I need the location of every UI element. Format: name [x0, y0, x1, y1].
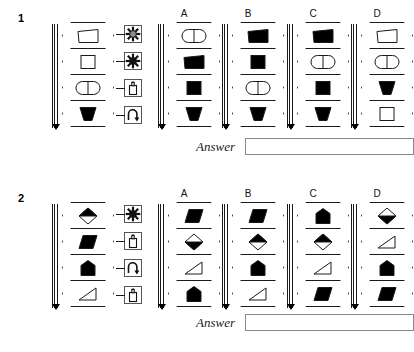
puzzle-1: 1ABCDAnswer [0, 0, 414, 176]
operator-connector [116, 34, 125, 35]
rotate-arrow-icon [125, 107, 141, 127]
flask-icon [125, 233, 141, 253]
operator-connector [116, 268, 125, 269]
option-A-rail [158, 24, 164, 128]
option-B-cell-3 [232, 254, 284, 281]
option-C-cell-3 [297, 254, 349, 281]
stem-stack-1-cell-1 [62, 22, 114, 49]
option-C-cell-1 [297, 22, 349, 49]
option-A-cell-3 [168, 254, 220, 281]
answer-label: Answer [196, 139, 235, 155]
answer-row: Answer [196, 314, 414, 331]
option-A-cell-4 [168, 100, 220, 127]
operator-connector [116, 295, 125, 296]
operator-connector [116, 115, 125, 116]
stem-stack-2-cell-4 [62, 280, 114, 307]
rail-pointer-icon [222, 124, 230, 130]
option-C-cell-4 [297, 100, 349, 127]
option-C-cell-1 [297, 202, 349, 229]
operator-rotate-4 [124, 106, 142, 124]
option-B-rail [222, 24, 228, 128]
option-B-cell-4 [232, 100, 284, 127]
option-label-D: D [367, 8, 387, 19]
option-label-C: C [303, 8, 323, 19]
option-D-cell-2 [361, 48, 413, 75]
stem-stack-1-rail [52, 24, 58, 128]
option-label-C: C [303, 188, 323, 199]
flask-icon [125, 80, 141, 100]
option-D-cell-1 [361, 22, 413, 49]
rotate-arrow-icon [125, 260, 141, 280]
option-C-rail [287, 24, 293, 128]
option-D-cell-2 [361, 228, 413, 255]
option-label-D: D [367, 188, 387, 199]
stem-stack-2-rail [52, 204, 58, 308]
operator-connector [116, 61, 125, 62]
operator-flask-2 [124, 232, 142, 250]
option-D-cell-3 [361, 74, 413, 101]
option-D-cell-4 [361, 100, 413, 127]
option-label-B: B [238, 8, 258, 19]
option-A-cell-3 [168, 74, 220, 101]
option-label-B: B [238, 188, 258, 199]
operator-flask-3 [124, 79, 142, 97]
rail-pointer-icon [158, 124, 166, 130]
option-B-cell-3 [232, 74, 284, 101]
option-B-cell-2 [232, 48, 284, 75]
operator-connector [116, 88, 125, 89]
operator-starburst-gray-1 [124, 25, 142, 43]
option-label-A: A [174, 188, 194, 199]
operator-rotate-3 [124, 259, 142, 277]
starburst-gray-icon [125, 26, 141, 46]
option-C-cell-3 [297, 74, 349, 101]
rail-pointer-icon [52, 304, 60, 310]
option-C-cell-2 [297, 48, 349, 75]
option-D-rail [351, 24, 357, 128]
option-A-cell-2 [168, 48, 220, 75]
option-D-rail [351, 204, 357, 308]
option-B-rail [222, 204, 228, 308]
rail-pointer-icon [158, 304, 166, 310]
puzzle-2: 2ABCDAnswer [0, 180, 414, 352]
operator-starburst-black-2 [124, 52, 142, 70]
operator-connector [116, 241, 125, 242]
option-B-cell-1 [232, 202, 284, 229]
option-A-cell-2 [168, 228, 220, 255]
rail-pointer-icon [52, 124, 60, 130]
option-D-cell-3 [361, 254, 413, 281]
stem-stack-1-cell-2 [62, 48, 114, 75]
option-A-cell-1 [168, 202, 220, 229]
option-A-cell-1 [168, 22, 220, 49]
puzzle-number: 2 [18, 192, 24, 204]
option-D-cell-4 [361, 280, 413, 307]
rail-pointer-icon [351, 304, 359, 310]
stem-stack-1-cell-3 [62, 74, 114, 101]
operator-starburst-black-1 [124, 205, 142, 223]
option-B-cell-2 [232, 228, 284, 255]
stem-stack-2-cell-2 [62, 228, 114, 255]
starburst-black-icon [125, 53, 141, 73]
option-C-cell-2 [297, 228, 349, 255]
stem-stack-2-cell-3 [62, 254, 114, 281]
option-B-cell-4 [232, 280, 284, 307]
option-B-cell-1 [232, 22, 284, 49]
operator-flask-4 [124, 286, 142, 304]
rail-pointer-icon [287, 304, 295, 310]
option-C-rail [287, 204, 293, 308]
option-A-rail [158, 204, 164, 308]
puzzle-number: 1 [18, 12, 24, 24]
option-D-cell-1 [361, 202, 413, 229]
starburst-black-icon [125, 206, 141, 226]
stem-stack-1-cell-4 [62, 100, 114, 127]
answer-row: Answer [196, 138, 414, 155]
operator-connector [116, 214, 125, 215]
flask-icon [125, 287, 141, 307]
option-A-cell-4 [168, 280, 220, 307]
answer-input[interactable] [245, 138, 414, 155]
option-C-cell-4 [297, 280, 349, 307]
answer-input[interactable] [245, 314, 414, 331]
rail-pointer-icon [287, 124, 295, 130]
answer-label: Answer [196, 315, 235, 331]
rail-pointer-icon [222, 304, 230, 310]
stem-stack-2-cell-1 [62, 202, 114, 229]
